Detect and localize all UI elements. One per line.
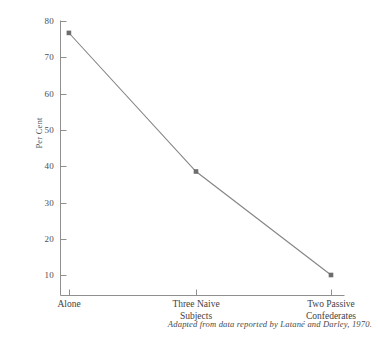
y-tick-label-10: 10 [32,270,54,280]
x-tick-marks [70,290,332,296]
data-point-alone [67,31,72,36]
y-tick-label-50: 50 [32,125,54,135]
chart-plot-area: Per Cent 80 70 60 50 40 30 20 10 Alone T… [0,0,378,339]
data-point-two-passive-confederates [329,273,334,278]
y-tick-label-20: 20 [32,234,54,244]
data-point-three-naive-subjects [194,169,199,174]
y-tick-label-80: 80 [32,16,54,26]
chart-svg [0,0,378,339]
source-caption: Adapted from data reported by Latané and… [0,319,372,329]
y-tick-label-30: 30 [32,198,54,208]
y-tick-marks [61,22,67,276]
y-tick-label-70: 70 [32,52,54,62]
figure-container: Per Cent 80 70 60 50 40 30 20 10 Alone T… [0,0,378,339]
y-tick-label-60: 60 [32,89,54,99]
y-tick-label-40: 40 [32,161,54,171]
x-tick-label-alone: Alone [21,299,117,311]
data-line-series-1 [69,33,331,275]
data-markers [67,31,334,278]
